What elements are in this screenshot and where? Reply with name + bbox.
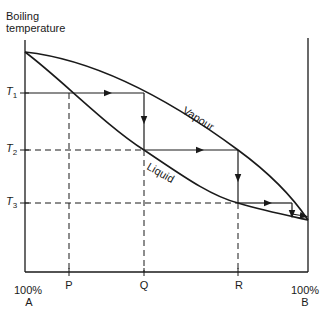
vapour-curve [25, 52, 308, 220]
temperature-guides [25, 150, 238, 203]
label-b: B [301, 296, 308, 308]
y-axis-label-line2: temperature [6, 22, 65, 34]
liquid-curve [25, 52, 308, 220]
label-r: R [235, 279, 243, 291]
label-b-percent: 100% [291, 284, 319, 296]
label-t3: T3 [6, 195, 17, 210]
label-p: P [65, 279, 72, 291]
label-t2: T2 [6, 142, 17, 157]
boiling-point-diagram [0, 0, 329, 314]
label-t1: T1 [6, 85, 17, 100]
label-q: Q [140, 279, 149, 291]
y-axis-label-line1: Boiling [6, 10, 39, 22]
label-a: A [25, 296, 32, 308]
distillation-steps [25, 93, 304, 216]
label-a-percent: 100% [14, 284, 42, 296]
